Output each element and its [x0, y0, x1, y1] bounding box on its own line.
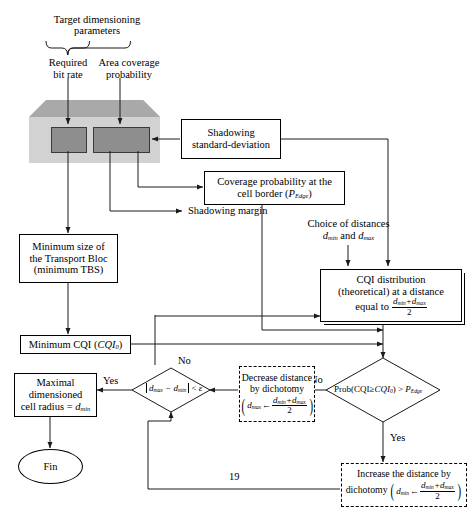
flowchart-canvas: Target dimensioning parameters Required …	[0, 0, 472, 529]
paren-open: (	[241, 398, 245, 414]
branch-label-yes-right: Yes	[390, 432, 405, 443]
increase-formula: dichotomy ( dmin ← dmin+dmax 2 )	[346, 481, 463, 501]
paren-close: )	[309, 398, 313, 414]
shadowing-margin-bullet	[181, 205, 183, 215]
decrease-line1: Decrease distance	[242, 373, 312, 384]
paren-open-2: (	[390, 483, 394, 499]
decision-shapes-layer	[0, 0, 472, 529]
decrease-fraction: dmin+dmax 2	[272, 396, 307, 416]
paren-close-2: )	[457, 483, 461, 499]
increase-fraction: dmin+dmax 2	[420, 481, 455, 501]
increase-distance-box: Increase the distance by dichotomy ( dmi…	[341, 463, 467, 507]
loop-label-19: 19	[229, 471, 240, 482]
decrease-formula: ( dmax ← dmin+dmax 2 )	[240, 396, 315, 416]
decrease-line2: by dichotomy	[250, 384, 304, 395]
decrease-distance-box: Decrease distance by dichotomy ( dmax ← …	[239, 366, 315, 422]
branch-label-no-left: No	[178, 355, 191, 366]
increase-line1: Increase the distance by	[357, 469, 451, 480]
branch-label-yes-left: Yes	[103, 375, 118, 386]
probability-decision-text: Prob(CQI≥CQI0) > PEdge	[334, 384, 422, 394]
epsilon-decision-text: dmax − dmin < ε	[146, 383, 202, 393]
